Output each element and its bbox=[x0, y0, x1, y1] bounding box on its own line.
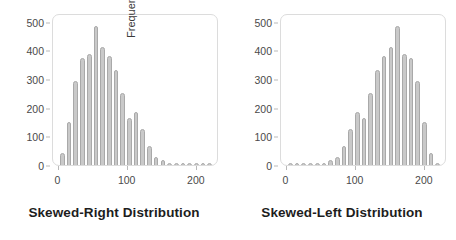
chart-panel-skewed-left: Frequency 0100200300400500 0100200 Skewe… bbox=[228, 0, 456, 240]
histogram-bar bbox=[100, 47, 105, 166]
y-tick-label: 200 bbox=[26, 103, 44, 115]
y-tick-label: 0 bbox=[266, 160, 272, 172]
histogram-bar bbox=[409, 58, 414, 166]
x-tick-mark bbox=[286, 166, 287, 170]
histogram-bar bbox=[422, 122, 427, 166]
bar-series bbox=[287, 19, 439, 165]
histogram-bar bbox=[395, 26, 400, 166]
x-tick-mark bbox=[196, 166, 197, 170]
y-tick-mark bbox=[274, 137, 278, 138]
y-tick-label: 400 bbox=[26, 45, 44, 57]
y-tick-label: 400 bbox=[254, 45, 272, 57]
x-tick-mark bbox=[424, 166, 425, 170]
y-tick-label: 0 bbox=[38, 160, 44, 172]
histogram-bar bbox=[147, 146, 152, 166]
y-tick-mark bbox=[46, 51, 50, 52]
y-tick-label: 300 bbox=[254, 74, 272, 86]
chart-panel-skewed-right: Frequency 0100200300400500 0100200 Skewe… bbox=[0, 0, 228, 240]
x-tick-label: 200 bbox=[415, 174, 433, 186]
y-tick-mark bbox=[274, 79, 278, 80]
x-tick-mark bbox=[58, 166, 59, 170]
x-tick-mark bbox=[127, 166, 128, 170]
y-tick-mark bbox=[274, 51, 278, 52]
y-tick-label: 200 bbox=[254, 103, 272, 115]
y-axis-tick-labels: 0100200300400500 bbox=[22, 14, 50, 166]
histogram-bar bbox=[415, 81, 420, 166]
x-tick-label: 200 bbox=[187, 174, 205, 186]
histogram-bar bbox=[382, 56, 387, 166]
histogram-bar bbox=[114, 70, 119, 166]
histogram-bar bbox=[80, 58, 85, 166]
histogram-bar bbox=[348, 129, 353, 166]
x-axis-tick-labels: 0100200 bbox=[280, 166, 446, 188]
y-tick-mark bbox=[46, 79, 50, 80]
y-tick-mark bbox=[46, 108, 50, 109]
histogram-bar bbox=[107, 56, 112, 166]
plot-area bbox=[281, 15, 445, 165]
y-tick-mark bbox=[46, 22, 50, 23]
y-tick-label: 100 bbox=[254, 131, 272, 143]
y-tick-mark bbox=[46, 166, 50, 167]
histogram-bar bbox=[429, 153, 434, 166]
y-tick-label: 300 bbox=[26, 74, 44, 86]
x-tick-label: 100 bbox=[118, 174, 136, 186]
histogram-bar bbox=[362, 118, 367, 166]
histogram-bar bbox=[67, 122, 72, 166]
histogram-figure: Frequency 0100200300400500 0100200 Skewe… bbox=[0, 0, 456, 240]
plot-frame bbox=[280, 14, 446, 166]
histogram-bar bbox=[368, 93, 373, 166]
y-tick-label: 100 bbox=[26, 131, 44, 143]
histogram-bar bbox=[389, 47, 394, 166]
x-tick-mark bbox=[355, 166, 356, 170]
histogram-bar bbox=[375, 70, 380, 166]
y-tick-label: 500 bbox=[26, 17, 44, 29]
y-axis-title: Frequency bbox=[122, 0, 140, 132]
histogram-bar bbox=[355, 112, 360, 166]
x-tick-label: 100 bbox=[346, 174, 364, 186]
x-tick-label: 0 bbox=[283, 174, 289, 186]
histogram-bar bbox=[60, 153, 65, 166]
x-axis-tick-labels: 0100200 bbox=[52, 166, 218, 188]
histogram-bar bbox=[87, 54, 92, 166]
histogram-bar bbox=[342, 146, 347, 166]
histogram-bar bbox=[335, 157, 340, 166]
histogram-bar bbox=[73, 81, 78, 166]
chart-caption: Skewed-Right Distribution bbox=[0, 205, 228, 220]
histogram-bar bbox=[94, 26, 99, 166]
y-tick-mark bbox=[274, 166, 278, 167]
x-tick-label: 0 bbox=[55, 174, 61, 186]
histogram-bar bbox=[154, 157, 159, 166]
y-tick-mark bbox=[46, 137, 50, 138]
histogram-bar bbox=[402, 54, 407, 166]
y-axis-tick-labels: 0100200300400500 bbox=[250, 14, 278, 166]
y-tick-mark bbox=[274, 108, 278, 109]
histogram-bar bbox=[140, 129, 145, 166]
y-tick-label: 500 bbox=[254, 17, 272, 29]
chart-caption: Skewed-Left Distribution bbox=[228, 205, 456, 220]
y-tick-mark bbox=[274, 22, 278, 23]
